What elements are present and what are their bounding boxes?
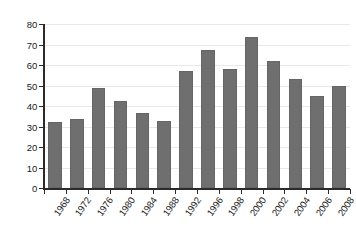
y-axis-tick-label: 10	[27, 162, 37, 173]
bar	[70, 119, 84, 188]
x-axis-tick-label: 2006	[313, 195, 334, 218]
x-axis-tick-mark	[66, 189, 67, 194]
y-axis-tick-mark	[39, 168, 44, 169]
y-axis-tick-label: 60	[27, 60, 37, 71]
y-axis-tick-label: 50	[27, 80, 37, 91]
x-axis-tick-mark	[350, 189, 351, 194]
y-axis-tick-mark	[39, 65, 44, 66]
y-axis-tick-mark	[39, 86, 44, 87]
y-axis-tick-mark	[39, 24, 44, 25]
y-axis-tick-mark	[39, 106, 44, 107]
x-axis-tick-label: 1968	[51, 195, 72, 218]
x-axis-tick-label: 1998	[226, 195, 247, 218]
y-axis-tick-mark	[39, 45, 44, 46]
x-axis-tick-mark	[131, 189, 132, 194]
bar	[267, 61, 281, 188]
bar-chart: 01020304050607080 1968197219761980198419…	[0, 0, 356, 246]
x-axis-tick-mark	[197, 189, 198, 194]
bar	[310, 96, 324, 188]
x-axis-tick-mark	[263, 189, 264, 194]
x-axis-tick-mark	[175, 189, 176, 194]
x-axis-tick-mark	[328, 189, 329, 194]
y-axis-tick-mark	[39, 127, 44, 128]
y-axis-tick-label: 80	[27, 19, 37, 30]
x-axis-tick-label: 1992	[182, 195, 203, 218]
y-axis-tick-label: 70	[27, 39, 37, 50]
x-axis-tick-label: 1976	[95, 195, 116, 218]
x-axis-tick-mark	[219, 189, 220, 194]
y-axis-tick-label: 20	[27, 142, 37, 153]
x-axis-tick-label: 2000	[248, 195, 269, 218]
plot-area	[44, 24, 350, 188]
x-axis-tick-mark	[153, 189, 154, 194]
x-axis-tick-mark	[88, 189, 89, 194]
x-axis-tick-mark	[110, 189, 111, 194]
bar	[179, 71, 193, 188]
bar	[332, 86, 346, 189]
x-axis-labels: 1968197219761980198419881992199619982000…	[44, 195, 350, 245]
x-axis-tick-label: 2004	[291, 195, 312, 218]
bar	[245, 37, 259, 188]
x-axis-tick-label: 2002	[269, 195, 290, 218]
x-axis-tick-label: 1980	[116, 195, 137, 218]
bar	[157, 121, 171, 188]
y-axis-tick-label: 40	[27, 101, 37, 112]
x-axis-tick-label: 1972	[73, 195, 94, 218]
x-axis-tick-label: 2008	[335, 195, 356, 218]
bar	[48, 122, 62, 188]
bar	[223, 69, 237, 188]
y-axis-tick-mark	[39, 147, 44, 148]
bar	[289, 79, 303, 188]
x-axis-tick-mark	[306, 189, 307, 194]
x-axis-tick-mark	[241, 189, 242, 194]
x-axis-tick-label: 1988	[160, 195, 181, 218]
bar	[92, 88, 106, 188]
x-axis-tick-mark	[44, 189, 45, 194]
bar	[114, 101, 128, 188]
x-axis-tick-mark	[284, 189, 285, 194]
bar	[136, 113, 150, 188]
y-axis-tick-label: 30	[27, 121, 37, 132]
bar	[201, 50, 215, 188]
bars-group	[44, 24, 350, 188]
y-axis-tick-label: 0	[32, 183, 37, 194]
x-axis-tick-label: 1984	[138, 195, 159, 218]
x-axis-tick-label: 1996	[204, 195, 225, 218]
